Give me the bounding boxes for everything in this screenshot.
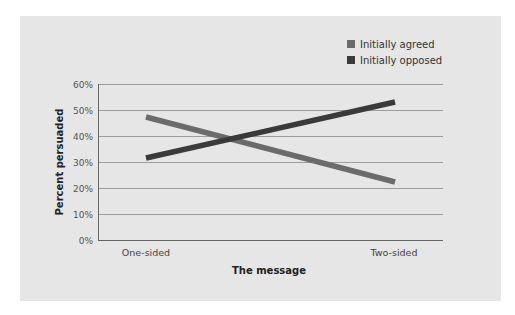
- y-tick-label: 0%: [79, 236, 94, 246]
- x-category-label: One-sided: [122, 247, 170, 258]
- y-axis-title: Percent persuaded: [54, 109, 65, 216]
- y-tick-label: 20%: [73, 184, 93, 194]
- legend-label: Initially agreed: [360, 39, 435, 50]
- y-tick-labels: 60% 50% 40% 30% 20% 10% 0%: [73, 80, 93, 246]
- y-tick-label: 10%: [73, 210, 93, 220]
- legend-label: Initially opposed: [360, 55, 442, 66]
- x-category-label: Two-sided: [370, 247, 418, 258]
- x-axis-title: The message: [232, 265, 306, 276]
- y-tick-label: 60%: [73, 80, 93, 90]
- line-chart: 60% 50% 40% 30% 20% 10% 0% One-sided Two…: [0, 0, 515, 315]
- y-tick-label: 30%: [73, 158, 93, 168]
- y-tick-label: 40%: [73, 132, 93, 142]
- y-tick-label: 50%: [73, 106, 93, 116]
- legend-swatch-initially-opposed: [347, 56, 355, 64]
- legend: Initially agreed Initially opposed: [347, 39, 442, 66]
- legend-swatch-initially-agreed: [347, 40, 355, 48]
